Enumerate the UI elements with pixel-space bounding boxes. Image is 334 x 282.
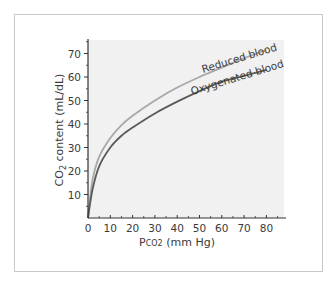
y-tick-label: 70 [68, 48, 81, 60]
x-tick-label: 80 [260, 222, 273, 234]
x-tick-label: 10 [104, 222, 117, 234]
y-axis-title: CO2 content (mL/dL) [53, 74, 68, 187]
y-tick-label: 50 [68, 95, 81, 107]
y-tick-label: 40 [68, 118, 81, 130]
x-tick-label: 0 [85, 222, 92, 234]
y-tick-label: 30 [68, 142, 81, 154]
x-tick-label: 50 [193, 222, 206, 234]
x-tick-label: 60 [215, 222, 228, 234]
x-tick-label: 40 [171, 222, 184, 234]
x-axis-title: PCO2 (mm Hg) [139, 236, 215, 249]
y-tick-label: 10 [68, 189, 81, 201]
x-tick-label: 30 [148, 222, 161, 234]
y-tick-label: 20 [68, 165, 81, 177]
x-tick-label: 20 [126, 222, 139, 234]
x-tick-label: 70 [237, 222, 250, 234]
y-tick-label: 60 [68, 71, 81, 83]
co2-dissociation-chart: 0102030405060708010203040506070 Reduced … [0, 0, 334, 282]
